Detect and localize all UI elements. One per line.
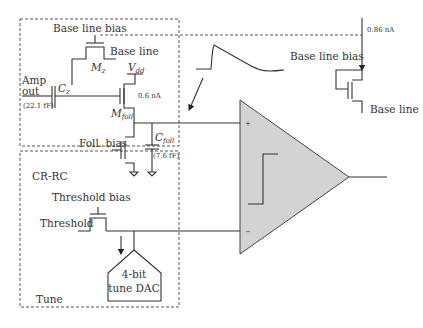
baseline-current-label: 0.86 nA [367,26,395,34]
comparator [240,100,349,254]
threshold-label: Threshold [40,217,94,229]
threshold-bias-label: Threshold bias [52,191,131,203]
baseline-gen-output-label: Base line [370,103,419,115]
baseline-gen-bias-label: Base line bias [290,50,364,62]
crrc-baseline-bias-label: Base line bias [53,22,127,34]
mfoll-label: Mfoll [110,107,133,121]
baseline-label: Base line [110,45,159,57]
tune-block-label: Tune [36,293,63,305]
pulse-waveform [196,45,284,71]
mz-label: Mz [90,61,106,75]
circuit-diagram: Base line bias Base line Mz Vdd Amp out … [0,0,423,328]
cz-value: (22.1 fF) [23,102,54,110]
crrc-block-label: CR-RC [32,170,67,182]
dac-label-2: tune DAC [108,282,159,294]
cfoll-label: Cfoll [155,131,174,145]
pulse-arrow [190,78,203,108]
foll-bias-transistor [112,123,138,176]
baseline-transistor [336,70,362,113]
mz-transistor [72,35,116,85]
cfoll-value: (7.6 fF) [153,152,180,160]
dac-label-1: 4-bit [122,268,147,280]
amp-out-label-2: out [22,85,40,97]
vdd-label: Vdd [128,61,145,75]
comparator-plus: + [245,120,251,128]
comparator-minus: − [245,228,251,236]
cz-label: Cz [58,82,70,96]
foll-bias-label: Foll. bias [79,137,127,149]
follower-current-label: 0.6 nA [138,92,162,100]
